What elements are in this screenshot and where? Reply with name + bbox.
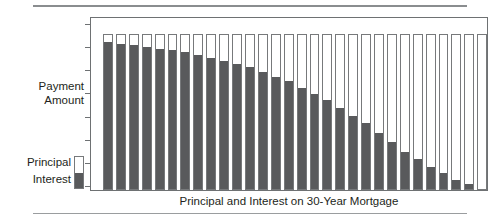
stacked-bar: [374, 34, 384, 190]
bar-series-container: [103, 18, 487, 190]
bar-segment-interest: [259, 72, 267, 189]
stacked-bar: [310, 34, 320, 190]
stacked-bar: [245, 34, 255, 190]
stacked-bar: [297, 34, 307, 190]
bar-segment-interest: [220, 61, 228, 189]
bar-segment-interest: [427, 167, 435, 189]
bar-segment-interest: [156, 49, 164, 189]
bottom-divider-rule: [33, 213, 467, 214]
bar-segment-interest: [465, 184, 473, 189]
stacked-bar: [322, 34, 332, 190]
legend-label-principal: Principal: [13, 154, 71, 171]
bar-segment-interest: [207, 58, 215, 189]
bar-segment-interest: [401, 152, 409, 189]
y-axis-tick: [85, 70, 91, 71]
stacked-bar: [439, 34, 449, 190]
chart-figure: Payment Amount Principal Interest Princi…: [0, 0, 500, 224]
bar-segment-interest: [194, 55, 202, 189]
legend-label-group: Principal Interest: [13, 154, 71, 188]
stacked-bar: [168, 34, 178, 190]
stacked-bar: [400, 34, 410, 190]
bar-segment-interest: [311, 94, 319, 189]
stacked-bar: [284, 34, 294, 190]
y-axis-tick: [85, 186, 91, 187]
bar-segment-interest: [452, 180, 460, 189]
bar-segment-interest: [169, 50, 177, 189]
legend-swatch-interest: [75, 173, 83, 189]
bar-segment-interest: [233, 64, 241, 189]
stacked-bar: [361, 34, 371, 190]
stacked-bar: [271, 34, 281, 190]
stacked-bar: [413, 34, 423, 190]
stacked-bar: [103, 34, 113, 190]
stacked-bar: [193, 34, 203, 190]
plot-area: [90, 17, 488, 191]
stacked-bar: [451, 34, 461, 190]
bar-segment-interest: [336, 108, 344, 189]
stacked-bar: [387, 34, 397, 190]
stacked-bar: [348, 34, 358, 190]
bar-segment-interest: [117, 44, 125, 189]
stacked-bar: [477, 34, 487, 190]
bar-segment-interest: [143, 47, 151, 189]
bar-segment-interest: [440, 173, 448, 189]
bar-segment-interest: [388, 142, 396, 189]
stacked-bar: [258, 34, 268, 190]
bar-segment-interest: [349, 116, 357, 189]
bar-segment-interest: [323, 100, 331, 189]
legend-label-interest: Interest: [13, 171, 71, 188]
stacked-bar: [129, 34, 139, 190]
y-axis-tick: [85, 140, 91, 141]
stacked-bar: [335, 34, 345, 190]
stacked-bar: [142, 34, 152, 190]
bar-segment-interest: [298, 88, 306, 189]
y-axis-tick: [85, 117, 91, 118]
bar-segment-interest: [246, 67, 254, 189]
y-axis-tick: [85, 163, 91, 164]
stacked-bar: [155, 34, 165, 190]
stacked-bar: [206, 34, 216, 190]
y-axis-title-line-1: Payment: [6, 80, 84, 94]
stacked-bar: [426, 34, 436, 190]
y-axis-tick: [85, 93, 91, 94]
stacked-bar: [180, 34, 190, 190]
chart-legend: Principal Interest: [8, 154, 84, 192]
bar-segment-interest: [181, 52, 189, 189]
chart-caption: Principal and Interest on 30-Year Mortga…: [90, 195, 488, 207]
bar-segment-interest: [375, 133, 383, 189]
y-axis-tick: [85, 47, 91, 48]
bar-segment-interest: [130, 45, 138, 189]
bar-segment-interest: [104, 42, 112, 189]
y-axis-title-line-2: Amount: [6, 94, 84, 108]
stacked-bar: [464, 34, 474, 190]
bar-segment-interest: [414, 159, 422, 189]
stacked-bar: [219, 34, 229, 190]
stacked-bar: [116, 34, 126, 190]
bar-segment-interest: [362, 123, 370, 189]
bar-segment-interest: [272, 77, 280, 189]
stacked-bar: [232, 34, 242, 190]
y-axis-tick: [85, 24, 91, 25]
top-divider-rule: [33, 5, 467, 7]
y-axis-title: Payment Amount: [6, 80, 84, 107]
bar-segment-interest: [285, 81, 293, 189]
legend-swatch-stacked: [74, 156, 84, 189]
